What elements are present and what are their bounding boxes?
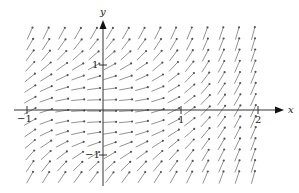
slope-arrow [120,142,132,147]
arrow-tip-icon [67,98,69,100]
slope-arrow [87,76,100,80]
arrow-tip-icon [115,131,117,133]
arrow-tip-icon [193,84,195,86]
arrow-tip-icon [208,60,210,62]
slope-arrow [40,141,51,148]
slope-arrow [56,141,68,147]
slope-arrow [71,99,84,100]
slope-arrow [219,27,223,39]
direction-field-plot: x y −1 1 2 1 −1 [0,0,299,193]
slope-arrow [218,84,225,95]
slope-arrow [153,51,162,61]
arrow-tip-icon [34,128,36,130]
arrow-tip-icon [160,171,162,173]
slope-arrow [120,63,131,70]
arrow-tip-icon [97,171,99,173]
slope-arrow [42,51,50,61]
arrow-tip-icon [130,62,132,64]
arrow-tip-icon [161,150,163,152]
arrow-tip-icon [115,141,117,143]
arrow-tip-icon [192,160,194,162]
arrow-tip-icon [99,121,101,123]
arrow-tip-icon [224,82,226,84]
slope-arrow [135,131,147,135]
slope-arrow [138,172,145,183]
slope-arrow [153,63,163,71]
x-axis-arrowhead-icon [275,107,284,114]
slope-arrow [24,85,35,92]
arrow-tip-icon [254,159,256,161]
arrow-tip-icon [51,97,53,99]
slope-arrow [71,111,84,112]
arrow-tip-icon [254,60,256,62]
x-tick-label-neg1: −1 [17,113,32,124]
arrow-tip-icon [147,86,149,88]
arrow-tip-icon [33,149,35,151]
arrow-tip-icon [113,50,115,52]
slope-arrow [151,98,163,102]
arrow-tip-icon [49,50,51,52]
slope-arrow [40,86,52,91]
slope-arrow [235,38,239,50]
slope-arrow [219,39,224,51]
arrow-tip-icon [239,115,241,117]
slope-arrow [251,171,255,184]
arrow-tip-icon [131,98,133,100]
slope-arrow [26,161,33,172]
slope-arrow [71,121,84,122]
slope-arrow [103,132,116,134]
slope-arrow [58,39,66,50]
arrow-tip-icon [83,98,85,100]
slope-arrow [153,151,163,160]
slope-arrow [25,130,36,137]
arrow-tip-icon [147,98,149,100]
arrow-tip-icon [193,72,195,74]
slope-arrow [55,99,68,102]
arrow-tip-icon [67,74,69,76]
slope-arrow [25,74,35,82]
slope-arrow [104,142,116,146]
slope-arrow [73,162,82,171]
arrow-tip-icon [34,84,36,86]
arrow-tip-icon [83,120,85,122]
arrow-tip-icon [65,161,67,163]
slope-arrow [71,132,84,135]
arrow-tip-icon [51,119,53,121]
arrow-tip-icon [49,160,51,162]
arrow-tip-icon [144,171,146,173]
slope-arrow [185,140,194,150]
slope-arrow [119,111,132,112]
slope-arrow [26,151,35,161]
arrow-tip-icon [238,49,240,51]
slope-arrow [155,28,161,40]
slope-arrow [56,87,69,91]
slope-arrow [89,162,99,171]
arrow-tip-icon [115,87,117,89]
slope-arrow [135,121,148,123]
slope-arrow [218,72,225,83]
slope-arrow [170,161,178,172]
slope-arrow [119,76,131,80]
slope-arrow [152,141,163,148]
slope-arrow [219,50,224,62]
arrow-tip-icon [255,104,257,106]
slope-arrow [119,132,132,135]
slope-arrow [151,120,163,124]
arrow-tip-icon [177,150,179,152]
arrow-tip-icon [33,61,35,63]
arrow-tip-icon [162,140,164,142]
slope-arrow [105,162,115,171]
slope-arrow [185,129,195,138]
arrow-tip-icon [254,37,256,39]
arrow-tip-icon [208,149,210,151]
slope-arrow [234,83,240,95]
arrow-tip-icon [194,106,196,108]
slope-arrow [218,128,225,139]
slope-arrow [186,50,193,61]
arrow-tip-icon [112,27,114,29]
arrow-tip-icon [128,171,130,173]
slope-arrow [87,88,100,90]
arrow-tip-icon [208,127,210,129]
arrow-tip-icon [177,139,179,141]
arrow-tip-icon [159,27,161,29]
